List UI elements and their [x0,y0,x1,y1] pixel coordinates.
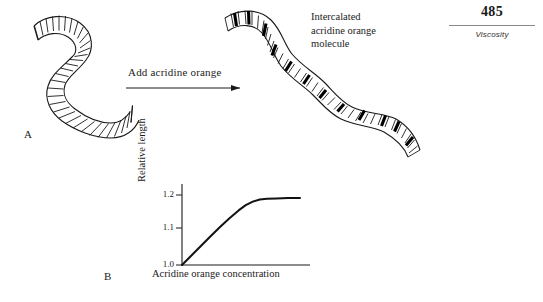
strand-endcap [34,26,133,123]
chart-axes [176,184,310,265]
panel-label-b: B [104,270,111,282]
y-tick-label-1: 1.1 [150,222,174,232]
intercalation-callout: Intercalated acridine orange molecule [311,10,431,51]
panel-label-a: A [24,128,32,140]
figure-page: 485 Viscosity [0,0,543,302]
callout-line-3: molecule [311,37,431,51]
chart-y-axis-label: Relative length [136,118,147,182]
y-tick-label-0: 1.0 [150,259,174,269]
arrow-label: Add acridine orange [128,66,222,78]
y-tick-label-2: 1.2 [150,189,174,199]
callout-line-2: acridine orange [311,24,431,38]
chart-x-axis-label: Acridine orange concentration [152,268,280,279]
chart-curve [182,198,300,265]
right-arrow-icon [126,85,240,91]
coiled-dna-icon [34,16,139,139]
figure-illustration [0,0,543,302]
callout-line-1: Intercalated [311,10,431,24]
